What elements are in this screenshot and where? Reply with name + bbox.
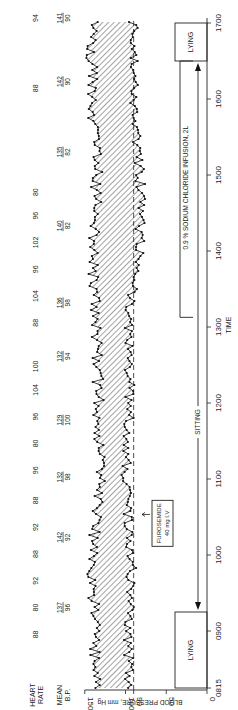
mean-bp-diastolic: 94: [64, 352, 71, 360]
mean-bp-systolic: 136: [56, 297, 63, 308]
heart-rate-value: 96: [32, 265, 39, 273]
data-point: [139, 213, 141, 215]
data-point: [133, 291, 135, 293]
data-point: [131, 519, 133, 521]
data-point: [97, 423, 99, 425]
data-point: [129, 570, 131, 572]
data-point: [123, 423, 125, 425]
data-point: [130, 405, 132, 407]
data-point: [126, 537, 128, 539]
data-point: [95, 393, 97, 395]
data-point: [139, 135, 141, 137]
labels: HEARTRATEMEANB.P.88809288928896809610410…: [29, 12, 71, 707]
mean-bp-systolic: 129: [56, 414, 63, 425]
data-point: [97, 252, 99, 254]
time-tick-label: 1000: [214, 546, 223, 564]
heart-rate-value: 94: [32, 14, 39, 22]
data-point: [128, 681, 130, 683]
data-point: [132, 114, 134, 116]
data-point: [122, 450, 124, 452]
data-point: [99, 486, 101, 488]
data-point: [130, 636, 132, 638]
heart-rate-value: 80: [32, 188, 39, 196]
data-point: [139, 150, 141, 152]
data-point: [141, 231, 143, 233]
data-point: [93, 591, 95, 593]
data-point: [96, 351, 98, 353]
data-point: [92, 663, 94, 665]
data-point: [92, 510, 94, 512]
data-point: [99, 300, 101, 302]
data-point: [100, 516, 102, 518]
data-point: [91, 63, 93, 65]
data-point: [90, 549, 92, 551]
furosemide-label-1: FUROSEMIDE: [156, 503, 162, 543]
data-point: [129, 489, 131, 491]
data-point: [123, 435, 125, 437]
data-point: [137, 270, 139, 272]
data-point: [125, 483, 127, 485]
data-point: [128, 558, 130, 560]
data-point: [99, 477, 101, 479]
data-point: [124, 522, 126, 524]
data-point: [96, 441, 98, 443]
data-point: [96, 411, 98, 413]
data-point: [139, 201, 141, 203]
time-tick-label: 1100: [214, 470, 223, 488]
data-point: [86, 48, 88, 50]
x-axis-title: TIME: [225, 316, 232, 333]
data-point: [93, 33, 95, 35]
data-point: [126, 591, 128, 593]
heart-rate-value: 92: [32, 523, 39, 531]
data-point: [96, 306, 98, 308]
data-point: [100, 192, 102, 194]
data-point: [130, 603, 132, 605]
data-point: [130, 39, 132, 41]
data-point: [134, 180, 136, 182]
data-point: [125, 438, 127, 440]
data-point: [129, 627, 131, 629]
data-point: [90, 567, 92, 569]
data-point: [94, 426, 96, 428]
data-point: [136, 144, 138, 146]
data-point: [91, 96, 93, 98]
data-point: [95, 288, 97, 290]
data-point: [87, 597, 89, 599]
data-point: [86, 54, 88, 56]
data-point: [98, 360, 100, 362]
data-point: [98, 657, 100, 659]
data-point: [134, 120, 136, 122]
data-point: [135, 54, 137, 56]
data-point: [129, 495, 131, 497]
lying-end-label: LYING: [187, 32, 194, 53]
data-point: [93, 195, 95, 197]
data-point: [98, 417, 100, 419]
data-point: [138, 225, 140, 227]
data-point: [97, 264, 99, 266]
data-point: [123, 471, 125, 473]
data-point: [98, 429, 100, 431]
data-point: [103, 399, 105, 401]
data-point: [142, 219, 144, 221]
y-axis-title: BLOOD PRESSURE, mm Hg: [97, 698, 182, 706]
heart-rate-value: 96: [32, 466, 39, 474]
time-tick-label: 1500: [214, 166, 223, 184]
data-point: [130, 90, 132, 92]
data-point: [97, 129, 99, 131]
data-point: [136, 108, 138, 110]
data-point: [131, 648, 133, 650]
mean-bp-diastolic: 82: [64, 148, 71, 156]
data-point: [90, 225, 92, 227]
data-point: [100, 372, 102, 374]
data-point: [100, 201, 102, 203]
data-point: [143, 168, 145, 170]
data-point: [128, 387, 130, 389]
data-point: [97, 609, 99, 611]
data-point: [89, 582, 91, 584]
data-point: [139, 147, 141, 149]
bp-label-2: B.P.: [64, 689, 71, 701]
data-point: [94, 666, 96, 668]
data-point: [97, 21, 99, 23]
data-point: [136, 111, 138, 113]
heart-rate-value: 80: [32, 439, 39, 447]
